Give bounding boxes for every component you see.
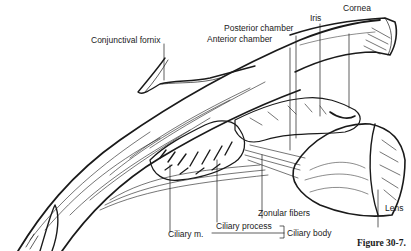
figure-caption: Figure 30-7. — [357, 238, 406, 248]
label-ciliary-body: Ciliary body — [287, 229, 331, 238]
label-ciliary-m: Ciliary m. — [168, 230, 203, 239]
label-conjunctival-fornix: Conjunctival fornix — [91, 36, 160, 45]
label-zonular-fibers: Zonular fibers — [258, 209, 310, 218]
leader-lines — [164, 24, 378, 238]
label-ciliary-process: Ciliary process — [216, 222, 272, 231]
label-posterior-chamber: Posterior chamber — [224, 24, 293, 33]
eye-anterior-segment-drawing — [0, 0, 411, 251]
zonular-fibers-shape — [245, 145, 305, 178]
label-lens: Lens — [385, 204, 403, 213]
iris-shape — [235, 98, 360, 142]
label-cornea: Cornea — [343, 4, 371, 13]
label-anterior-chamber: Anterior chamber — [207, 35, 272, 44]
anatomy-figure: Cornea Iris Posterior chamber Anterior c… — [0, 0, 411, 251]
label-iris: Iris — [310, 14, 321, 23]
conjunctival-fornix-shape — [138, 58, 255, 93]
